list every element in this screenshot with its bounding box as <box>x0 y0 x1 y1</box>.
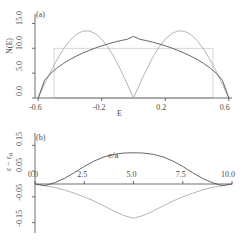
panel-a-ytick-0: 0.0 <box>16 86 24 96</box>
panel-b-xtick-1: 2.5 <box>77 171 87 179</box>
panel-a-xtick-0: -0.6 <box>29 104 42 112</box>
panel-b-ytick-3: -0.15 <box>16 210 24 227</box>
panel-a-xtick-3: 0.6 <box>220 104 230 112</box>
panel-b-curves <box>35 153 232 219</box>
panel-a: (a) N(E) E 0.05.010.015.0 -0.6-0.20.20.6 <box>0 0 241 121</box>
panel-a-curves <box>38 31 229 98</box>
panel-b-xtick-0: 0.0 <box>28 171 38 179</box>
panel-b-ytick-1: 0.05 <box>16 158 24 172</box>
panel-b-xtick-2: 5.0 <box>127 171 137 179</box>
panel-b-ytick-0: 0.15 <box>16 132 24 146</box>
panel-b-ytick-2: -0.05 <box>16 184 24 201</box>
panel-a-ylabel: N(E) <box>6 38 14 54</box>
panel-a-tag: (a) <box>36 11 45 19</box>
figure-root: (a) N(E) E 0.05.010.015.0 -0.6-0.20.20.6… <box>0 0 241 242</box>
panel-a-ytick-2: 10.0 <box>16 36 24 50</box>
panel-b-xtick-3: 7.5 <box>176 171 186 179</box>
panel-a-xlabel: E <box>117 110 122 118</box>
panel-a-xtick-2: 0.2 <box>156 104 166 112</box>
panel-b-tag: (b) <box>36 134 45 142</box>
panel-b-xtick-4: 10.0 <box>221 171 235 179</box>
panel-b-ylabel: ε − ε₀ <box>5 153 13 171</box>
panel-a-ytick-1: 5.0 <box>16 61 24 71</box>
panel-a-xtick-1: -0.2 <box>93 104 106 112</box>
panel-b: (b) ε − ε₀ e/a 0.150.05-0.05-0.15 0.02.5… <box>0 121 241 242</box>
panel-a-ytick-3: 15.0 <box>16 11 24 25</box>
panel-a-axes <box>32 14 232 101</box>
panel-b-xlabel: e/a <box>108 151 119 159</box>
